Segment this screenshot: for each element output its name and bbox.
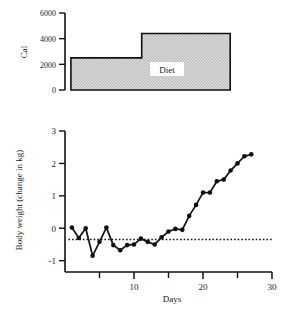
bw-y-ticklabel: 3: [52, 126, 57, 136]
bw-data-point: [235, 161, 240, 166]
bw-x-tick-group: [100, 272, 273, 279]
bw-x-ticklabel: 20: [199, 282, 209, 292]
bw-data-point: [215, 179, 220, 184]
bw-data-point: [228, 168, 233, 173]
bw-y-ticklabel: 1: [52, 191, 57, 201]
bw-data-point: [152, 242, 157, 247]
diet-y-ticklabel-group: 0200040006000: [40, 9, 56, 95]
bw-data-point: [201, 190, 206, 195]
bw-data-point: [208, 190, 213, 195]
bw-y-ticklabel: 0: [52, 224, 57, 234]
bw-y-ticklabel: -1: [49, 256, 57, 266]
bw-data-point: [83, 226, 88, 231]
bw-x-axis-label: Days: [163, 294, 182, 304]
bw-data-markers: [70, 152, 254, 258]
figure-container: 0200040006000 Cal Diet -10123 102030 Bod…: [0, 0, 284, 313]
bw-x-ticklabel-group: 102030: [130, 282, 278, 292]
diet-step-area: [71, 34, 230, 90]
diet-annotation: Diet: [150, 62, 184, 76]
bw-y-ticklabel-group: -10123: [49, 126, 57, 266]
bw-y-tick-group: [59, 131, 65, 261]
bw-x-ticklabel: 10: [130, 282, 140, 292]
bw-data-point: [194, 203, 199, 208]
diet-panel: 0200040006000 Cal Diet: [19, 9, 230, 95]
diet-y-ticklabel: 6000: [40, 9, 56, 18]
bw-data-point: [139, 236, 144, 241]
bw-x-ticklabel: 30: [268, 282, 278, 292]
bw-data-point: [187, 214, 192, 219]
bw-data-point: [249, 152, 254, 157]
bw-data-point: [104, 225, 109, 230]
diet-label-text: Diet: [159, 65, 175, 75]
diet-y-ticklabel: 4000: [40, 35, 56, 44]
diet-y-tick-group: [59, 13, 65, 90]
bw-data-point: [97, 240, 102, 245]
bw-axes: -10123 102030: [49, 126, 278, 292]
bw-y-axis-label: Body weight (change in kg): [14, 150, 24, 250]
bw-data-point: [159, 235, 164, 240]
bw-data-point: [70, 225, 75, 230]
bw-data-point: [111, 243, 116, 248]
bodyweight-panel: -10123 102030 Body weight (change in kg)…: [14, 126, 277, 304]
bw-data-point: [166, 229, 171, 234]
bw-data-point: [118, 248, 123, 253]
bw-data-point: [132, 242, 137, 247]
bw-data-point: [242, 154, 247, 159]
bw-data-point: [173, 227, 178, 232]
diet-y-ticklabel: 2000: [40, 61, 56, 70]
diet-y-axis: 0200040006000: [40, 9, 65, 95]
bw-y-ticklabel: 2: [52, 159, 57, 169]
diet-y-axis-label: Cal: [19, 45, 29, 58]
bw-data-point: [125, 243, 130, 248]
bw-data-point: [90, 253, 95, 258]
bw-data-point: [180, 228, 185, 233]
diet-y-ticklabel: 0: [52, 86, 56, 95]
bw-data-point: [221, 177, 226, 182]
bw-data-point: [77, 236, 82, 241]
chart-canvas: 0200040006000 Cal Diet -10123 102030 Bod…: [0, 0, 284, 313]
bw-data-point: [146, 240, 151, 245]
